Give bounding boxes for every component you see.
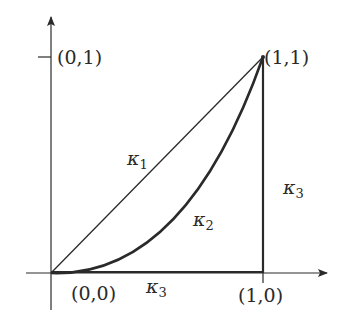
label-kappa3-vertical-symbol: κ [282, 176, 296, 198]
label-kappa3-horizontal-subscript: 3 [158, 285, 166, 300]
label-kappa2-subscript: 2 [205, 218, 213, 233]
label-kappa2-symbol: κ [192, 208, 206, 230]
label-kappa1-symbol: κ [126, 147, 140, 169]
label-kappa3-horizontal: κ3 [145, 275, 167, 300]
label-point-1-0: (1,0) [238, 284, 283, 306]
label-kappa3-horizontal-symbol: κ [145, 275, 159, 297]
label-kappa1: κ1 [126, 147, 148, 172]
label-kappa2: κ2 [192, 208, 214, 233]
label-point-0-1: (0,1) [57, 46, 102, 68]
curve-kappa1 [51, 57, 263, 273]
label-kappa3-vertical: κ3 [282, 176, 304, 201]
label-point-1-1: (1,1) [264, 46, 309, 68]
label-kappa3-vertical-subscript: 3 [295, 186, 303, 201]
label-point-0-0: (0,0) [71, 282, 116, 304]
label-kappa1-subscript: 1 [139, 157, 147, 172]
curves-diagram: (0,1) (1,1) (0,0) (1,0) κ1 κ2 κ3 κ3 [0, 0, 343, 330]
